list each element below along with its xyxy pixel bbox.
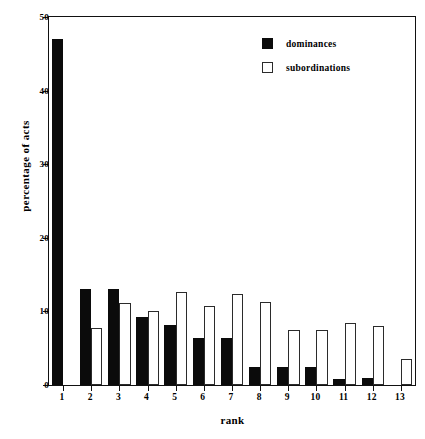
bar-dominances [164, 325, 175, 385]
bar-subordinations [204, 306, 215, 385]
x-tick-label: 8 [245, 392, 273, 402]
bar-dominances [52, 39, 63, 385]
x-tick-label: 3 [104, 392, 132, 402]
bar-dominances [333, 379, 344, 385]
bar-dominances [221, 338, 232, 385]
bar-subordinations [288, 330, 299, 385]
bar-dominances [136, 317, 147, 385]
x-tick-mark [91, 385, 92, 391]
x-tick-mark [63, 385, 64, 391]
x-tick-label: 6 [189, 392, 217, 402]
x-tick-label: 1 [48, 392, 76, 402]
x-tick-mark [204, 385, 205, 391]
y-tick-label: 10 [27, 305, 49, 317]
x-tick-mark [119, 385, 120, 391]
x-tick-mark [345, 385, 346, 391]
bar-dominances [108, 289, 119, 385]
y-tick-label: 50 [27, 11, 49, 23]
x-tick-mark [373, 385, 374, 391]
x-tick-mark [316, 385, 317, 391]
x-tick-label: 7 [217, 392, 245, 402]
x-tick-mark [176, 385, 177, 391]
y-tick-label: 0 [27, 379, 49, 391]
x-tick-mark [148, 385, 149, 391]
x-tick-label: 9 [273, 392, 301, 402]
x-tick-label: 12 [358, 392, 386, 402]
legend-item-dominances: dominances [262, 38, 350, 49]
bar-dominances [305, 367, 316, 385]
bar-subordinations [176, 292, 187, 385]
x-tick-mark [232, 385, 233, 391]
x-tick-label: 10 [301, 392, 329, 402]
x-tick-mark [288, 385, 289, 391]
legend-label-dominances: dominances [286, 39, 337, 49]
bar-subordinations [401, 359, 412, 385]
x-tick-mark [401, 385, 402, 391]
bar-subordinations [148, 311, 159, 385]
bar-subordinations [316, 330, 327, 385]
x-tick-label: 2 [76, 392, 104, 402]
plot-area: 01020304050 [48, 16, 416, 386]
x-tick-label: 5 [161, 392, 189, 402]
bar-dominances [249, 367, 260, 385]
x-tick-label: 4 [133, 392, 161, 402]
bar-subordinations [373, 326, 384, 385]
y-tick-label: 20 [27, 232, 49, 244]
x-tick-label: 11 [330, 392, 358, 402]
bar-subordinations [119, 303, 130, 385]
bar-subordinations [232, 294, 243, 385]
bar-subordinations [91, 328, 102, 385]
legend-swatch-dominances-icon [262, 38, 273, 49]
legend-label-subordinations: subordinations [286, 63, 350, 73]
legend: dominances subordinations [262, 38, 350, 86]
bar-dominances [277, 367, 288, 385]
bar-subordinations [345, 323, 356, 385]
y-tick-label: 30 [27, 158, 49, 170]
x-tick-mark [260, 385, 261, 391]
bar-dominances [193, 338, 204, 385]
x-axis-title: rank [45, 414, 420, 426]
bar-dominances [80, 289, 91, 385]
bar-subordinations [260, 302, 271, 385]
legend-swatch-subordinations-icon [262, 62, 273, 73]
bar-dominances [362, 378, 373, 385]
legend-item-subordinations: subordinations [262, 62, 350, 73]
y-tick-label: 40 [27, 85, 49, 97]
x-tick-label: 13 [386, 392, 414, 402]
bar-chart: percentage of acts 01020304050 123456789… [0, 0, 425, 439]
